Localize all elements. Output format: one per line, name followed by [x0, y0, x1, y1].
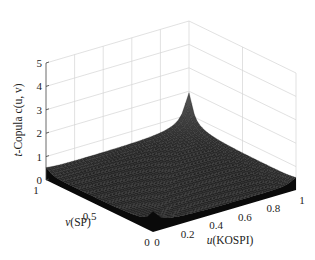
z-axis-label: t-Copula c(u, v) — [12, 83, 25, 156]
x-tick-label: 0.2 — [181, 228, 195, 240]
x-tick-label: 0 — [154, 236, 160, 248]
x-tick-label: 0.8 — [267, 202, 281, 214]
z-tick-label: 2 — [37, 127, 43, 139]
z-tick-label: 3 — [37, 104, 43, 116]
copula-surface-plot: 01234500.20.40.60.8100.51 t-Copula c(u, … — [0, 0, 315, 260]
axes — [46, 62, 49, 180]
y-axis-label: v(SP) — [65, 216, 91, 229]
y-tick-label: 0 — [144, 236, 150, 248]
x-axis-label: u(KOSPI) — [207, 234, 254, 247]
x-tick-label: 0.6 — [238, 211, 252, 223]
z-tick-label: 1 — [37, 151, 43, 163]
y-tick-label: 1 — [33, 184, 39, 196]
x-tick-label: 1 — [299, 194, 305, 206]
x-tick-label: 0.4 — [209, 219, 223, 231]
z-tick-label: 5 — [37, 57, 43, 69]
z-tick-label: 4 — [37, 80, 43, 92]
